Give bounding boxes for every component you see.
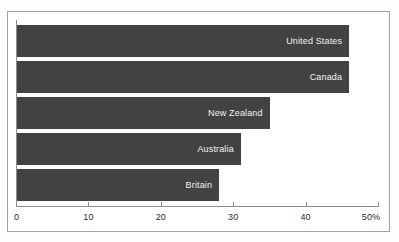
bar-label: New Zealand: [208, 108, 263, 118]
bar[interactable]: United States: [17, 25, 349, 57]
bar-row: Canada: [17, 61, 378, 93]
x-tick-mark: [233, 202, 234, 207]
x-tick-mark: [88, 202, 89, 207]
x-tick-mark: [378, 202, 379, 207]
chart-frame: United StatesCanadaNew ZealandAustraliaB…: [7, 11, 390, 232]
bar-label: Canada: [310, 72, 342, 82]
bar-label: Australia: [197, 144, 233, 154]
x-axis-ticks: 01020304050%: [16, 206, 378, 232]
cropped-title-text: [78, 0, 318, 6]
plot-area: United StatesCanadaNew ZealandAustraliaB…: [16, 20, 378, 206]
bar-row: New Zealand: [17, 97, 378, 129]
x-tick-label: 0: [14, 212, 19, 222]
bar[interactable]: New Zealand: [17, 97, 270, 129]
bar-series: United StatesCanadaNew ZealandAustraliaB…: [17, 25, 378, 201]
bar[interactable]: Australia: [17, 133, 241, 165]
bar[interactable]: Canada: [17, 61, 349, 93]
bar-row: United States: [17, 25, 378, 57]
x-tick-mark: [161, 202, 162, 207]
x-tick-label: 20: [156, 212, 166, 222]
x-tick-label: 10: [83, 212, 93, 222]
bar-row: Australia: [17, 133, 378, 165]
x-tick-label: 30: [228, 212, 238, 222]
bar-row: Britain: [17, 169, 378, 201]
x-tick-label: 40: [300, 212, 310, 222]
x-tick-label: 50%: [362, 212, 380, 222]
x-tick-mark: [306, 202, 307, 207]
bar-label: United States: [286, 36, 342, 46]
bar[interactable]: Britain: [17, 169, 219, 201]
bar-label: Britain: [186, 180, 213, 190]
